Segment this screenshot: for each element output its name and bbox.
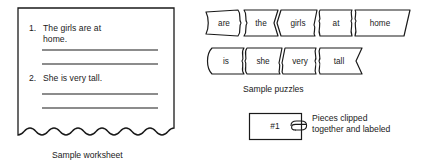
puzzle-piece-label: she	[256, 57, 270, 66]
puzzle-piece-label: at	[333, 19, 341, 28]
label-card-text: #1	[270, 121, 280, 131]
puzzle-row-2-pieces: is she very tall	[204, 44, 422, 78]
worksheet-item-2-text: She is very tall.	[43, 73, 102, 84]
clipped-pieces-label: #1	[248, 112, 310, 142]
puzzle-row-1-pieces: are the girls at home	[204, 6, 422, 40]
sample-worksheet-and-puzzles-figure: 1. The girls are at home. 2. She is very…	[0, 0, 425, 167]
puzzle-piece-label: very	[292, 57, 308, 66]
puzzle-piece-label: is	[223, 57, 229, 66]
puzzle-piece-label: home	[370, 19, 391, 28]
puzzle-piece-label: are	[218, 19, 230, 28]
puzzle-piece-label: tall	[334, 57, 345, 66]
sample-worksheet: 1. The girls are at home. 2. She is very…	[16, 6, 176, 141]
worksheet-item-1-text: The girls are at home.	[43, 23, 101, 44]
worksheet-item-2-number: 2.	[29, 73, 36, 84]
puzzle-row-1: are the girls at home	[204, 6, 422, 40]
worksheet-item-1-number: 1.	[29, 23, 36, 34]
puzzle-piece-label: the	[255, 19, 267, 28]
puzzle-piece-label: girls	[290, 19, 305, 28]
worksheet-caption: Sample worksheet	[52, 150, 123, 161]
puzzles-caption: Sample puzzles	[243, 84, 304, 95]
worksheet-text-layer: 1. The girls are at home. 2. She is very…	[16, 6, 176, 141]
puzzle-row-2: is she very tall	[204, 44, 422, 78]
clipped-label-graphic: #1	[248, 112, 310, 142]
clipped-pieces-note: Pieces clipped together and labeled	[312, 113, 390, 136]
